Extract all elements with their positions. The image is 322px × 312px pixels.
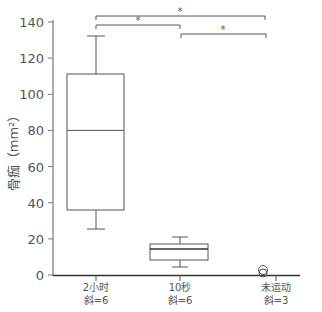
x-label-2h-n: 斜=6 [84, 294, 109, 306]
y-tick-label: 140 [19, 15, 44, 30]
y-tick-label: 0 [36, 268, 44, 283]
x-labels: 2小时 斜=6 10秒 斜=6 未运动 斜=3 [83, 281, 291, 306]
sig-2h-vs-none: * [178, 6, 183, 17]
x-label-10s-n: 斜=6 [168, 294, 193, 306]
y-tick-label: 20 [27, 232, 44, 247]
y-tick-label: 40 [27, 196, 44, 211]
sig-2h-vs-10s: * [136, 15, 141, 26]
x-label-no-exercise-n: 斜=3 [264, 294, 289, 306]
x-label-no-exercise: 未运动 [261, 282, 291, 293]
y-ticks [48, 22, 53, 275]
y-tick-label: 60 [27, 160, 44, 175]
box-10s [150, 237, 208, 267]
box-plot: 0 20 40 60 80 100 120 140 骨痂（mm²） 2小时 斜=… [0, 0, 322, 312]
y-tick-labels: 0 20 40 60 80 100 120 140 [19, 15, 44, 283]
significance-labels: * * * [136, 6, 226, 35]
x-label-2h: 2小时 [83, 282, 109, 293]
x-label-10s: 10秒 [169, 281, 192, 293]
significance-brackets [96, 16, 266, 38]
y-axis-label: 骨痂（mm²） [6, 109, 21, 192]
y-tick-label: 80 [27, 123, 44, 138]
y-tick-label: 100 [19, 87, 44, 102]
box-2h [67, 36, 124, 229]
y-tick-label: 120 [19, 51, 44, 66]
sig-10s-vs-none: * [221, 24, 226, 35]
